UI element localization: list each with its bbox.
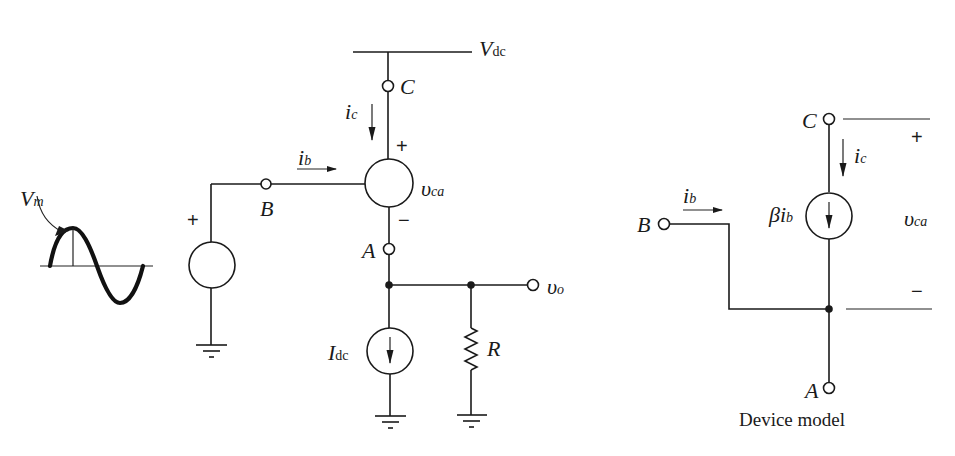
output-voltage-label: υo: [547, 276, 564, 298]
emitter-label: A: [362, 240, 375, 262]
model-base-current-label: ib: [683, 185, 696, 207]
device-voltage-label: υca: [421, 178, 444, 200]
collector-current-label: ic: [345, 101, 357, 123]
base-current-label: ib: [298, 147, 311, 169]
dc-current-source: [367, 328, 413, 416]
model-minus-sign: −: [911, 281, 923, 301]
model-voltage-label: υca: [904, 208, 927, 230]
bias-current-label: Idc: [328, 342, 349, 364]
source-plus-sign: +: [187, 210, 199, 230]
circuit-figure: Vdc C ic + υca − A B ib + Vm Idc R υo C …: [0, 0, 955, 456]
model-collector-current-label: ic: [854, 145, 866, 167]
output-terminal: [528, 280, 539, 291]
collector-label: C: [400, 76, 415, 98]
device-plus-sign: +: [396, 136, 408, 156]
device-minus-sign: −: [398, 210, 410, 230]
collector-terminal: [383, 81, 394, 92]
dependent-current-source: [806, 193, 852, 239]
supply-voltage-label: Vdc: [479, 38, 506, 60]
emitter-terminal: [384, 244, 395, 255]
ground-icon: [196, 345, 227, 357]
resistor-icon: [465, 285, 477, 415]
model-collector-label: C: [802, 110, 817, 132]
ground-icon: [457, 415, 487, 427]
model-emitter-terminal: [824, 383, 835, 394]
ground-icon: [375, 416, 406, 428]
device-element: [365, 159, 413, 207]
model-plus-sign: +: [911, 127, 923, 147]
model-base-terminal: [659, 219, 670, 230]
base-label: B: [260, 198, 273, 220]
resistor-label: R: [487, 338, 500, 360]
model-emitter-label: A: [805, 380, 818, 402]
model-base-label: B: [637, 214, 650, 236]
model-caption: Device model: [739, 410, 845, 429]
dependent-source-label: βib: [769, 204, 793, 226]
model-collector-terminal: [824, 114, 835, 125]
sine-waveform-icon: [37, 196, 153, 303]
base-terminal: [261, 179, 271, 189]
amplitude-label: Vm: [20, 188, 44, 210]
